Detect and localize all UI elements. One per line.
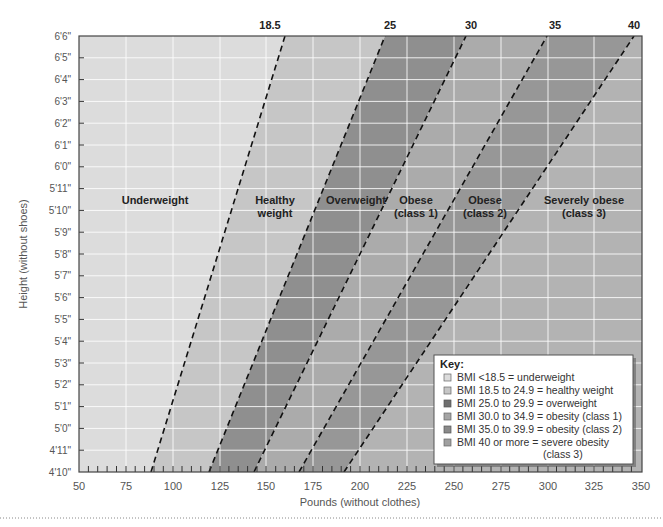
legend: Key: BMI <18.5 = underweight BMI 18.5 to… [434,355,636,467]
legend-swatch-obese-3 [444,439,451,446]
svg-text:125: 125 [211,480,229,492]
band-label-obese-3-2: (class 3) [562,207,606,219]
svg-text:5'10": 5'10" [49,205,72,216]
svg-text:5'9": 5'9" [54,227,71,238]
svg-text:75: 75 [120,480,132,492]
legend-entry: BMI 30.0 to 34.9 = obesity (class 1) [457,410,622,422]
svg-text:175: 175 [304,480,322,492]
svg-text:5'7": 5'7" [54,270,71,281]
svg-text:100: 100 [164,480,182,492]
svg-text:6'1": 6'1" [54,140,71,151]
band-label-obese-1-2: (class 1) [394,207,438,219]
svg-text:6'4": 6'4" [54,74,71,85]
svg-text:6'6": 6'6" [54,31,71,42]
svg-text:6'2": 6'2" [54,118,71,129]
bmi-label-18-5: 18.5 [259,19,280,31]
legend-entry: BMI 40 or more = severe obesity [457,436,610,448]
legend-swatch-underweight [444,374,451,381]
x-axis-ticks: 50 75 100 125 150 175 200 225 250 275 30… [73,480,650,492]
svg-text:6'0": 6'0" [54,161,71,172]
legend-entry: BMI 18.5 to 24.9 = healthy weight [457,384,613,396]
svg-text:5'11": 5'11" [50,183,72,194]
band-label-obese-2: Obese [468,194,502,206]
svg-text:5'1": 5'1" [54,401,71,412]
legend-swatch-obese-2 [444,426,451,433]
band-label-underweight: Underweight [122,194,189,206]
bmi-label-40: 40 [628,19,640,31]
svg-text:275: 275 [492,480,510,492]
y-axis-label: Height (without shoes) [17,199,29,308]
svg-text:225: 225 [398,480,416,492]
svg-text:300: 300 [539,480,557,492]
legend-swatch-healthy [444,387,451,394]
legend-entry-cont: (class 3) [543,448,583,460]
svg-text:200: 200 [351,480,369,492]
svg-text:350: 350 [632,480,650,492]
svg-text:5'2": 5'2" [54,379,71,390]
bmi-label-30: 30 [465,19,477,31]
legend-title: Key: [440,358,464,370]
bmi-chart: Underweight Healthy weight Overweight Ob… [0,0,663,527]
legend-entry: BMI 35.0 to 39.9 = obesity (class 2) [457,423,622,435]
legend-swatch-obese-1 [444,413,451,420]
bmi-label-25: 25 [384,19,396,31]
legend-entry: BMI 25.0 to 29.9 = overweight [457,397,597,409]
svg-text:5'3": 5'3" [54,358,71,369]
band-label-healthy-2: weight [257,207,293,219]
x-axis-label: Pounds (without clothes) [300,496,420,508]
svg-text:4'10": 4'10" [49,467,72,478]
bmi-label-35: 35 [549,19,561,31]
svg-text:50: 50 [73,480,85,492]
legend-entry: BMI <18.5 = underweight [457,371,574,383]
svg-text:5'5": 5'5" [54,314,71,325]
band-label-obese-3: Severely obese [544,194,624,206]
svg-text:4'11": 4'11" [50,445,72,456]
band-label-healthy: Healthy [255,194,296,206]
svg-text:325: 325 [585,480,603,492]
band-label-overweight: Overweight [326,194,386,206]
band-label-obese-2-2: (class 2) [463,207,507,219]
legend-swatch-overweight [444,400,451,407]
svg-text:5'6": 5'6" [54,292,71,303]
svg-text:5'4": 5'4" [54,336,71,347]
bmi-line-labels: 18.5 25 30 35 40 [259,19,640,31]
svg-text:150: 150 [257,480,275,492]
svg-text:5'0": 5'0" [54,423,71,434]
svg-text:6'5": 6'5" [54,52,71,63]
y-axis-ticks: 6'6" 6'5" 6'4" 6'3" 6'2" 6'1" 6'0" 5'11"… [49,31,72,478]
svg-text:5'8": 5'8" [54,249,71,260]
svg-text:6'3": 6'3" [54,96,71,107]
band-label-obese-1: Obese [399,194,433,206]
svg-text:250: 250 [445,480,463,492]
